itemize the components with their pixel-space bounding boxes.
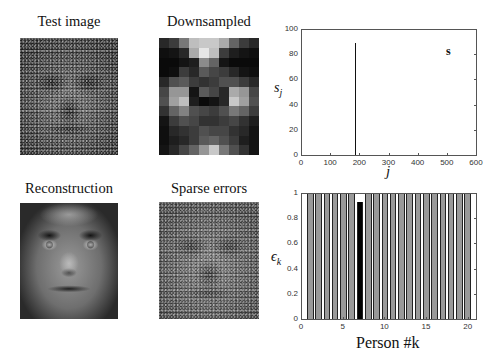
downsampled-pixel — [179, 136, 189, 146]
downsampled-pixel — [209, 106, 219, 116]
downsampled-pixel — [159, 106, 169, 116]
x-tick-label: 100 — [320, 158, 340, 167]
sparse-errors-image — [159, 202, 259, 319]
downsampled-pixel — [209, 145, 219, 155]
downsampled-pixel — [219, 48, 229, 58]
downsampled-pixel — [219, 38, 229, 48]
bar-person-13 — [406, 194, 413, 319]
downsampled-pixel — [199, 87, 209, 97]
x-tick-label: 200 — [349, 158, 369, 167]
downsampled-pixel — [169, 58, 179, 68]
downsampled-pixel — [239, 97, 249, 107]
x-tick-label: 5 — [333, 322, 353, 331]
bar-person-15 — [423, 194, 430, 319]
downsampled-pixel — [209, 77, 219, 87]
bar-person-17 — [440, 194, 447, 319]
downsampled-pixel — [239, 136, 249, 146]
downsampled-pixel — [189, 145, 199, 155]
coefficient-spike — [355, 43, 357, 156]
bar-person-2 — [315, 194, 322, 319]
bar-person-16 — [431, 194, 438, 319]
downsampled-image — [159, 38, 259, 155]
bar-person-1 — [307, 194, 314, 319]
downsampled-pixel — [159, 87, 169, 97]
bar-person-9 — [373, 194, 380, 319]
y-tick — [474, 105, 476, 106]
downsampled-pixel — [199, 106, 209, 116]
downsampled-pixel — [219, 116, 229, 126]
downsampled-pixel — [179, 97, 189, 107]
downsampled-pixel — [239, 48, 249, 58]
downsampled-pixel — [209, 87, 219, 97]
downsampled-pixel — [169, 48, 179, 58]
x-tick-label: 400 — [408, 158, 428, 167]
downsampled-pixel — [229, 126, 239, 136]
y-tick — [474, 319, 476, 320]
downsampled-pixel — [209, 48, 219, 58]
test-image-title: Test image — [20, 13, 118, 30]
downsampled-pixel — [199, 126, 209, 136]
y-tick-label: 1 — [277, 188, 298, 197]
downsampled-pixel — [159, 126, 169, 136]
downsampled-pixel — [169, 87, 179, 97]
x-tick — [476, 153, 477, 155]
bar-person-20 — [464, 194, 471, 319]
downsampled-pixel — [229, 58, 239, 68]
reconstruction-image — [20, 203, 118, 319]
downsampled-pixel — [209, 38, 219, 48]
x-tick-label: 600 — [466, 158, 486, 167]
downsampled-pixel — [229, 116, 239, 126]
bottom-xlabel: Person #k — [356, 334, 420, 352]
y-tick — [474, 193, 476, 194]
bottom-ylabel: ϵk — [271, 249, 281, 267]
x-tick — [426, 317, 427, 319]
downsampled-pixel — [159, 77, 169, 87]
y-tick-label: 100 — [277, 24, 298, 33]
x-tick — [384, 317, 385, 319]
downsampled-pixel — [189, 136, 199, 146]
downsampled-pixel — [199, 97, 209, 107]
coefficient-chart-axes: s — [301, 29, 477, 156]
x-tick — [468, 317, 469, 319]
downsampled-pixel — [209, 136, 219, 146]
downsampled-pixel — [189, 126, 199, 136]
downsampled-pixel — [159, 136, 169, 146]
downsampled-pixel — [199, 116, 209, 126]
downsampled-pixel — [169, 136, 179, 146]
downsampled-pixel — [179, 106, 189, 116]
downsampled-pixel — [219, 106, 229, 116]
downsampled-pixel — [179, 67, 189, 77]
downsampled-pixel — [219, 67, 229, 77]
downsampled-pixel — [219, 77, 229, 87]
x-tick — [418, 153, 419, 155]
y-tick-label: 0 — [277, 150, 298, 159]
downsampled-pixel — [189, 58, 199, 68]
downsampled-pixel — [239, 126, 249, 136]
y-tick — [474, 54, 476, 55]
bar-person-11 — [390, 194, 397, 319]
downsampled-pixel — [199, 67, 209, 77]
downsampled-title: Downsampled — [150, 13, 268, 30]
downsampled-pixel — [179, 77, 189, 87]
y-tick — [474, 218, 476, 219]
downsampled-pixel — [199, 38, 209, 48]
reconstruction-title: Reconstruction — [10, 180, 128, 197]
downsampled-pixel — [249, 136, 259, 146]
downsampled-pixel — [159, 145, 169, 155]
bar-person-7 — [357, 202, 364, 320]
sparse-errors-title: Sparse errors — [150, 180, 268, 197]
bar-person-18 — [448, 194, 455, 319]
x-tick — [301, 153, 302, 155]
y-tick — [474, 243, 476, 244]
downsampled-pixel — [209, 126, 219, 136]
downsampled-pixel — [169, 145, 179, 155]
downsampled-pixel — [189, 48, 199, 58]
test-image — [20, 38, 118, 155]
y-tick-label: 0 — [277, 314, 298, 323]
downsampled-pixel — [239, 116, 249, 126]
downsampled-pixel — [249, 87, 259, 97]
bar-person-19 — [456, 194, 463, 319]
downsampled-pixel — [179, 116, 189, 126]
x-tick-label: 15 — [416, 322, 436, 331]
downsampled-pixel — [199, 48, 209, 58]
